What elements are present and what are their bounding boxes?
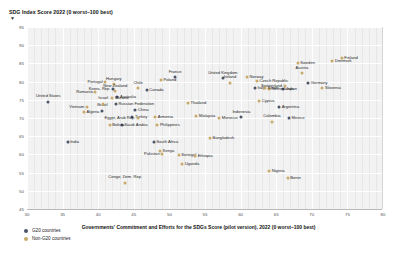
scatter-point-label: Cyprus xyxy=(262,99,275,104)
scatter-point[interactable] xyxy=(134,109,137,112)
scatter-point[interactable] xyxy=(268,169,271,172)
x-tick-label: 40 xyxy=(96,212,101,217)
y-tick-label: 55 xyxy=(2,170,24,175)
scatter-point-label: Colombia xyxy=(263,115,280,120)
scatter-point[interactable] xyxy=(115,103,118,106)
scatter-point-label: Poland xyxy=(163,77,176,82)
scatter-point[interactable] xyxy=(94,90,97,93)
scatter-point[interactable] xyxy=(137,116,140,119)
scatter-point-label: Vietnam xyxy=(69,105,84,110)
scatter-point[interactable] xyxy=(288,117,291,120)
scatter-point-label: Portugal xyxy=(87,80,102,85)
scatter-point-label: Spain xyxy=(267,86,277,91)
x-tick-label: 75 xyxy=(345,212,350,217)
scatter-point[interactable] xyxy=(177,154,180,157)
scatter-point[interactable] xyxy=(82,111,85,114)
gridline-horizontal xyxy=(27,63,382,64)
scatter-point-label: Kenya xyxy=(163,148,175,153)
y-tick-label: 65 xyxy=(2,134,24,139)
scatter-point[interactable] xyxy=(181,162,184,165)
scatter-point[interactable] xyxy=(124,181,127,184)
scatter-point-label: Benin xyxy=(290,176,300,181)
x-axis-line xyxy=(27,209,382,210)
scatter-point[interactable] xyxy=(270,120,273,123)
scatter-point-label: Austria xyxy=(295,66,308,71)
y-tick-label: 80 xyxy=(2,79,24,84)
chart-title: SDG Index Score 2022 (0 worst–100 best) xyxy=(9,9,113,15)
gridline-horizontal xyxy=(27,191,382,192)
x-tick-label: 55 xyxy=(203,212,208,217)
scatter-point[interactable] xyxy=(286,177,289,180)
scatter-point[interactable] xyxy=(194,154,197,157)
scatter-point-label: China xyxy=(138,108,149,113)
scatter-point-label: Bangladesh xyxy=(213,136,235,141)
scatter-point-label: Canada xyxy=(149,88,163,93)
gridline-horizontal xyxy=(27,173,382,174)
scatter-point[interactable] xyxy=(208,137,211,140)
scatter-point-label: Ukraine xyxy=(115,96,129,101)
scatter-point[interactable] xyxy=(258,100,261,103)
scatter-point[interactable] xyxy=(263,87,266,90)
gridline-horizontal xyxy=(27,136,382,137)
scatter-point[interactable] xyxy=(101,109,104,112)
scatter-point[interactable] xyxy=(240,116,243,119)
scatter-point-label: New Zealand xyxy=(103,84,127,89)
legend-swatch-icon xyxy=(24,229,28,233)
y-axis-ticks: 4550556065707580859095 xyxy=(0,27,24,209)
gridline-horizontal xyxy=(27,82,382,83)
scatter-point-label: Bolivia xyxy=(112,122,124,127)
scatter-point[interactable] xyxy=(186,101,189,104)
y-tick-label: 75 xyxy=(2,97,24,102)
scatter-point[interactable] xyxy=(145,88,148,91)
scatter-point-label: Nigeria xyxy=(272,168,285,173)
scatter-point-label: Mexico xyxy=(292,116,305,121)
scatter-point[interactable] xyxy=(331,60,334,63)
scatter-point[interactable] xyxy=(253,86,256,89)
scatter-point-label: India xyxy=(70,139,79,144)
scatter-point[interactable] xyxy=(300,72,303,75)
scatter-point-label: Czech Republic xyxy=(260,78,289,83)
scatter-point-label: Armenia xyxy=(158,115,173,120)
scatter-point[interactable] xyxy=(161,153,164,156)
plot-area: United StatesRussian FederationBrazilChi… xyxy=(27,27,383,209)
scatter-point[interactable] xyxy=(137,87,140,90)
scatter-point[interactable] xyxy=(246,76,249,79)
scatter-point[interactable] xyxy=(228,81,231,84)
scatter-point[interactable] xyxy=(111,97,114,100)
scatter-point[interactable] xyxy=(156,124,159,127)
scatter-point[interactable] xyxy=(108,123,111,126)
scatter-point[interactable] xyxy=(195,115,198,118)
scatter-point-label: United States xyxy=(36,95,61,100)
scatter-point-label: Congo, Dem. Rep. xyxy=(108,176,142,181)
y-tick-label: 70 xyxy=(2,116,24,121)
gridline-horizontal xyxy=(27,45,382,46)
legend-item[interactable]: G20 countries xyxy=(24,228,71,233)
scatter-point[interactable] xyxy=(152,141,155,144)
scatter-point[interactable] xyxy=(321,87,324,90)
scatter-point[interactable] xyxy=(255,79,258,82)
x-tick-label: 65 xyxy=(274,212,279,217)
scatter-point[interactable] xyxy=(307,82,310,85)
scatter-point[interactable] xyxy=(296,61,299,64)
legend-item[interactable]: Non-G20 countries xyxy=(24,236,71,241)
legend-label: G20 countries xyxy=(32,228,61,233)
scatter-point-label: Israel xyxy=(98,97,108,102)
scatter-point-label: Hungary xyxy=(106,77,121,82)
x-tick-label: 35 xyxy=(60,212,65,217)
scatter-point-label: Uganda xyxy=(185,162,199,167)
scatter-point-label: Saudi Arabia xyxy=(124,122,147,127)
scatter-point[interactable] xyxy=(47,100,50,103)
scatter-point[interactable] xyxy=(159,78,162,81)
scatter-point[interactable] xyxy=(278,106,281,109)
scatter-point[interactable] xyxy=(154,116,157,119)
y-tick-label: 85 xyxy=(2,61,24,66)
scatter-point-label: South Africa xyxy=(156,140,178,145)
scatter-point[interactable] xyxy=(114,90,117,93)
x-axis-ticks: 3035404550556065707580 xyxy=(27,212,382,222)
legend-swatch-icon xyxy=(24,237,28,241)
scatter-point[interactable] xyxy=(102,102,105,105)
gridline-horizontal xyxy=(27,27,382,28)
scatter-point[interactable] xyxy=(66,140,69,143)
scatter-point[interactable] xyxy=(218,116,221,119)
scatter-point-label: Chile xyxy=(133,81,142,86)
